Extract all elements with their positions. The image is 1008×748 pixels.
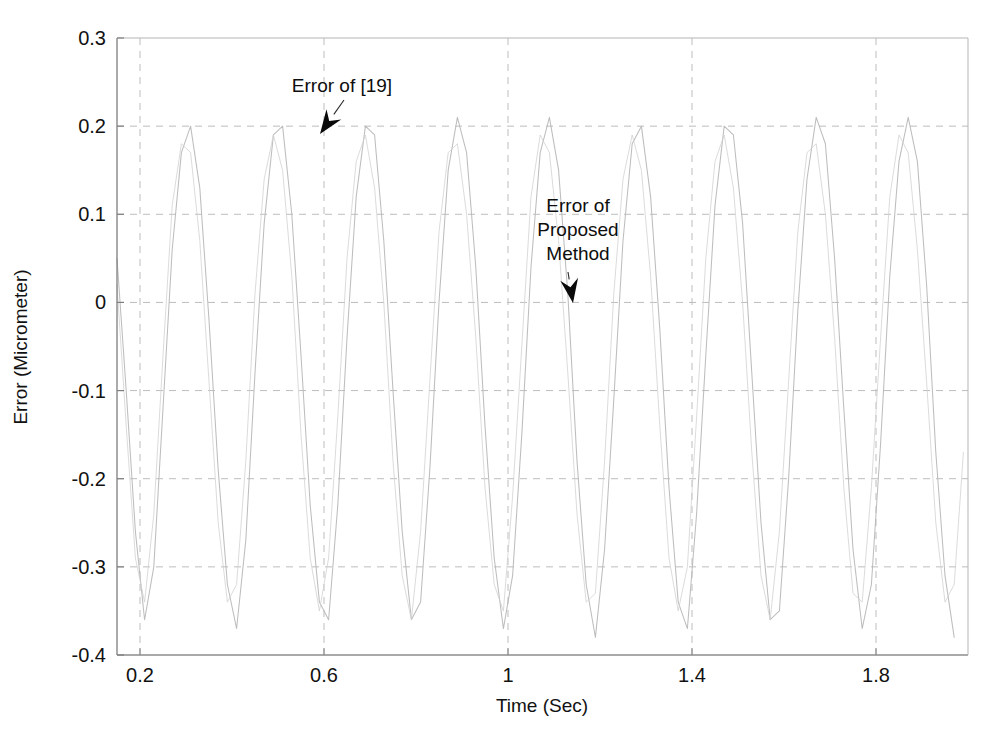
y-tick-label: -0.1 (72, 380, 106, 402)
y-tick-label: -0.2 (72, 468, 106, 490)
x-tick-label: 0.6 (310, 664, 338, 686)
x-tick-label: 1 (502, 664, 513, 686)
x-tick-label: 0.2 (126, 664, 154, 686)
y-tick-label: 0 (95, 291, 106, 313)
chart-figure: 0.20.611.41.8 0.30.20.10-0.1-0.2-0.3-0.4… (0, 0, 1008, 748)
x-tick-label: 1.4 (678, 664, 706, 686)
annotation-error-of-19-label: Error of [19] (292, 75, 392, 96)
y-tick-label: 0.3 (78, 27, 106, 49)
x-tick-label: 1.8 (862, 664, 890, 686)
y-tick-label: -0.4 (72, 644, 106, 666)
y-tick-label: -0.3 (72, 556, 106, 578)
y-tick-label: 0.1 (78, 203, 106, 225)
annotation-error-of-proposed-method-label: Error ofProposedMethod (537, 195, 618, 264)
x-axis-title: Time (Sec) (496, 695, 588, 716)
chart-background (0, 0, 1008, 748)
error-comparison-line-chart: 0.20.611.41.8 0.30.20.10-0.1-0.2-0.3-0.4… (0, 0, 1008, 748)
y-tick-label: 0.2 (78, 115, 106, 137)
y-axis-title: Error (Micrometer) (10, 269, 31, 424)
